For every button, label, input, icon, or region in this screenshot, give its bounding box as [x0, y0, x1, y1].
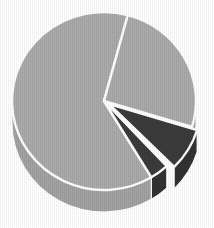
pie-top-faces [12, 12, 197, 190]
pie-chart-canvas [0, 0, 214, 228]
pie-chart-figure [0, 0, 214, 228]
